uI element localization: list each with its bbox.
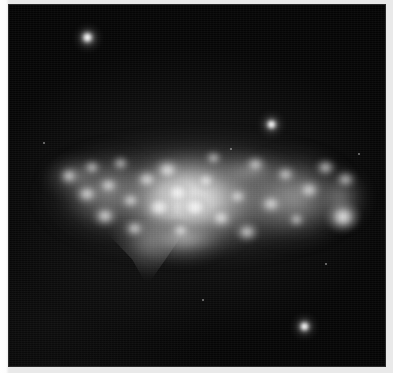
faint-speck	[230, 148, 232, 150]
star-upper-middle	[263, 116, 280, 133]
faint-speck	[358, 153, 360, 155]
faint-speck	[43, 142, 45, 144]
faint-speck	[202, 299, 204, 301]
figure-page	[0, 0, 393, 373]
astronomical-image-plate	[9, 5, 385, 366]
foreground-stars-group	[9, 5, 385, 366]
star-top-left	[78, 28, 97, 47]
star-bottom-right	[296, 318, 313, 335]
faint-speck	[325, 263, 327, 265]
